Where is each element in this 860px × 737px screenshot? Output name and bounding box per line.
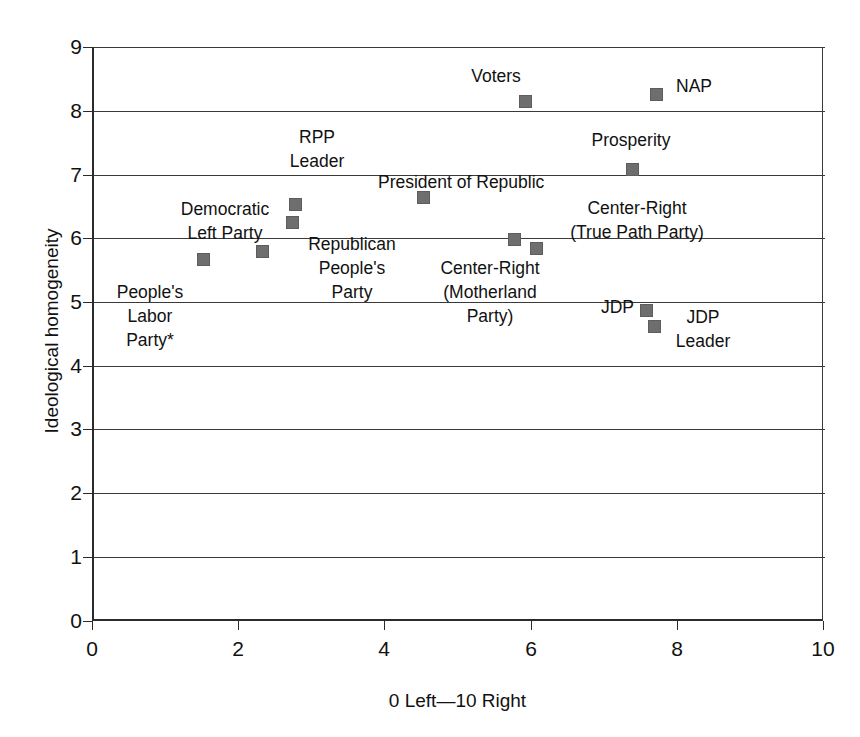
plot-right-border [822,47,823,621]
x-tick-mark-8 [677,621,678,630]
marker-peoples-labor-party[interactable] [197,253,210,266]
y-tick-label-3: 3 [42,418,82,439]
x-tick-label-6: 6 [509,638,553,659]
point-label-jdp: JDP [576,295,634,319]
y-tick-label-2: 2 [42,482,82,503]
y-tick-mark-3 [83,429,92,430]
marker-nap[interactable] [650,88,663,101]
x-tick-label-8: 8 [655,638,699,659]
point-label-jdp-leader-line2: Leader [666,329,740,353]
gridline-1 [94,557,825,558]
point-label-prosperity: Prosperity [572,128,690,152]
marker-prosperity[interactable] [626,163,639,176]
y-tick-mark-4 [83,366,92,367]
y-tick-label-4: 4 [42,355,82,376]
point-label-jdp-leader-line1: JDP [666,305,740,329]
point-label-center-right-motherland-line1: Center-Right [420,256,560,280]
point-label-center-right-true-path-line2: (True Path Party) [553,220,721,244]
y-tick-label-7: 7 [42,164,82,185]
point-label-peoples-labor-party-line2: Labor [95,304,205,328]
gridline-8 [94,111,825,112]
point-label-republican-peoples-party-line1: Republican [288,232,416,256]
y-tick-label-9: 9 [42,36,82,57]
point-label-center-right-motherland-line3: Party) [420,304,560,328]
gridline-4 [94,366,825,367]
x-tick-label-4: 4 [362,638,406,659]
x-tick-mark-6 [531,621,532,630]
point-label-republican-peoples-party-line3: Party [288,280,416,304]
y-tick-label-1: 1 [42,546,82,567]
y-tick-label-8: 8 [42,100,82,121]
gridline-3 [94,429,825,430]
marker-jdp-leader[interactable] [648,320,661,333]
y-tick-label-6: 6 [42,227,82,248]
point-label-peoples-labor-party-line1: People's [95,280,205,304]
y-tick-mark-9 [83,47,92,48]
x-tick-mark-10 [823,621,824,630]
point-label-democratic-left-party-line1: Democratic [160,197,290,221]
point-label-voters: Voters [458,64,534,88]
scatter-plot-figure: Ideological homogeneity 9 8 7 6 5 4 3 2 … [0,0,860,737]
point-label-rpp-leader-line1: RPP [272,125,362,149]
y-tick-mark-0 [83,621,92,622]
x-tick-mark-2 [238,621,239,630]
x-axis-title: 0 Left—10 Right [92,690,823,712]
y-tick-mark-2 [83,493,92,494]
marker-rpp-leader[interactable] [289,198,302,211]
x-tick-mark-4 [384,621,385,630]
point-label-nap: NAP [676,74,736,98]
point-label-center-right-motherland-line2: (Motherland [420,280,560,304]
point-label-peoples-labor-party-line3: Party* [95,328,205,352]
gridline-9 [94,47,825,48]
marker-center-right-true-path-party[interactable] [508,233,521,246]
point-label-democratic-left-party-line2: Left Party [160,221,290,245]
y-tick-mark-6 [83,238,92,239]
y-axis-title: Ideological homogeneity [41,161,63,501]
point-label-president-of-republic: President of Republic [378,170,538,194]
marker-democratic-left-party[interactable] [256,245,269,258]
point-label-rpp-leader-line2: Leader [272,149,362,173]
x-tick-mark-0 [92,621,93,630]
y-tick-label-0: 0 [42,610,82,631]
marker-center-right-motherland-party[interactable] [530,242,543,255]
x-tick-label-10: 10 [801,638,845,659]
y-tick-label-5: 5 [42,291,82,312]
y-tick-mark-5 [83,302,92,303]
y-tick-mark-8 [83,111,92,112]
y-tick-mark-7 [83,175,92,176]
point-label-republican-peoples-party-line2: People's [288,256,416,280]
gridline-2 [94,493,825,494]
marker-jdp[interactable] [640,304,653,317]
x-tick-label-0: 0 [70,638,114,659]
x-tick-label-2: 2 [216,638,260,659]
point-label-center-right-true-path-line1: Center-Right [562,196,712,220]
marker-voters[interactable] [519,95,532,108]
y-tick-mark-1 [83,557,92,558]
